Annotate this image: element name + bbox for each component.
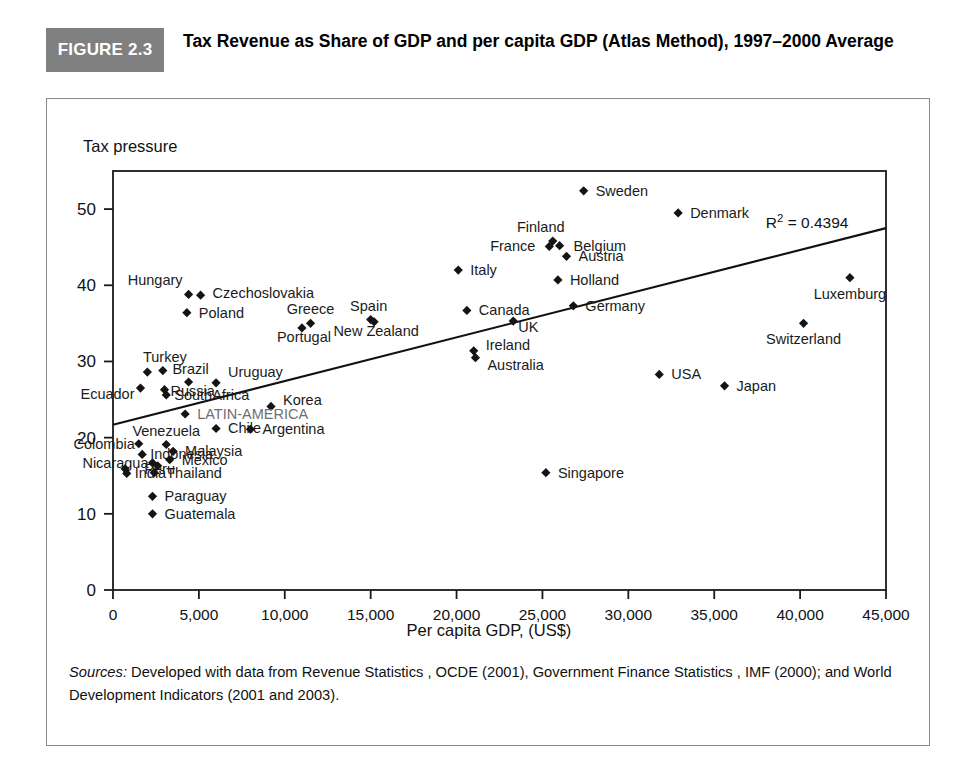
data-point-marker bbox=[158, 366, 167, 375]
figure-panel: Tax pressure 0102030405005,00010,00015,0… bbox=[46, 98, 930, 746]
data-point-label: Switzerland bbox=[766, 331, 841, 347]
data-point-label: Sweden bbox=[596, 183, 648, 199]
data-point-label: New Zealand bbox=[333, 323, 418, 339]
data-point-marker bbox=[555, 241, 564, 250]
data-point-marker bbox=[148, 492, 157, 501]
data-point-label: Japan bbox=[737, 378, 777, 394]
data-point-label: Finland bbox=[517, 219, 565, 235]
data-point-label: Luxemburg bbox=[814, 286, 887, 302]
data-point-label: Uruguay bbox=[228, 364, 284, 380]
data-point-label: Colombia bbox=[74, 436, 136, 452]
data-point-marker bbox=[720, 381, 729, 390]
data-point-marker bbox=[148, 509, 157, 518]
data-point-label: Austria bbox=[578, 248, 624, 264]
data-point-marker bbox=[184, 290, 193, 299]
source-text: Developed with data from Revenue Statist… bbox=[69, 664, 892, 703]
data-point-label: Thailand bbox=[166, 465, 222, 481]
data-point-label: Hungary bbox=[128, 272, 184, 288]
data-point-label: USA bbox=[671, 366, 701, 382]
figure-header: FIGURE 2.3 Tax Revenue as Share of GDP a… bbox=[46, 28, 930, 88]
data-point-marker bbox=[462, 306, 471, 315]
data-point-label: Canada bbox=[479, 302, 531, 318]
source-label: Sources: bbox=[69, 664, 127, 680]
data-point-label: Ecuador bbox=[80, 386, 134, 402]
data-point-label: Argentina bbox=[262, 421, 325, 437]
data-point-label: UK bbox=[518, 319, 538, 335]
data-point-marker bbox=[553, 275, 562, 284]
data-point-marker bbox=[136, 384, 145, 393]
data-point-marker bbox=[541, 468, 550, 477]
data-point-marker bbox=[579, 186, 588, 195]
data-point-label: Czechoslovakia bbox=[213, 285, 315, 301]
data-point-label: SouthAfrica bbox=[174, 387, 250, 403]
data-point-label: Poland bbox=[199, 305, 244, 321]
data-point-marker bbox=[655, 370, 664, 379]
y-axis-tick-label: 10 bbox=[77, 505, 96, 524]
data-point-label: Spain bbox=[350, 298, 387, 314]
data-point-marker bbox=[562, 252, 571, 261]
y-axis-tick-label: 0 bbox=[87, 581, 96, 600]
data-point-label: Singapore bbox=[558, 465, 624, 481]
data-point-label: Denmark bbox=[690, 205, 750, 221]
data-point-marker bbox=[134, 439, 143, 448]
y-axis-tick-label: 50 bbox=[77, 200, 96, 219]
data-point-label: Ireland bbox=[486, 337, 530, 353]
data-point-label: France bbox=[490, 238, 535, 254]
data-point-marker bbox=[469, 346, 478, 355]
data-point-marker bbox=[211, 424, 220, 433]
data-point-marker bbox=[471, 353, 480, 362]
data-point-marker bbox=[674, 208, 683, 217]
data-point-marker bbox=[306, 319, 315, 328]
chart-area: Tax pressure 0102030405005,00010,00015,0… bbox=[47, 99, 931, 659]
data-point-marker bbox=[845, 273, 854, 282]
data-point-label: Portugal bbox=[277, 329, 331, 345]
data-point-label: Greece bbox=[287, 301, 335, 317]
y-axis-tick-label: 30 bbox=[77, 352, 96, 371]
data-point-label: India bbox=[135, 465, 167, 481]
figure-number-badge: FIGURE 2.3 bbox=[46, 28, 164, 72]
r-squared-annotation: R2 = 0.4394 bbox=[766, 212, 849, 231]
data-point-marker bbox=[196, 291, 205, 300]
data-point-label: Italy bbox=[470, 262, 497, 278]
data-point-label: Venezuela bbox=[132, 423, 201, 439]
y-axis-tick-label: 40 bbox=[77, 276, 96, 295]
data-point-label: Australia bbox=[487, 357, 544, 373]
data-point-label: Guatemala bbox=[165, 506, 237, 522]
data-point-label: Chile bbox=[228, 420, 261, 436]
figure-title: Tax Revenue as Share of GDP and per capi… bbox=[183, 28, 894, 53]
scatter-plot: 0102030405005,00010,00015,00020,00025,00… bbox=[47, 99, 931, 659]
data-point-label: Holland bbox=[570, 272, 619, 288]
data-point-label: Paraguay bbox=[165, 488, 228, 504]
data-point-marker bbox=[454, 265, 463, 274]
data-point-marker bbox=[181, 409, 190, 418]
x-axis-title: Per capita GDP, (US$) bbox=[47, 621, 931, 640]
data-point-marker bbox=[143, 368, 152, 377]
data-point-label: Brazil bbox=[172, 361, 208, 377]
source-note: Sources: Developed with data from Revenu… bbox=[69, 661, 909, 707]
data-point-marker bbox=[799, 319, 808, 328]
data-point-label: Germany bbox=[585, 298, 645, 314]
data-point-marker bbox=[182, 308, 191, 317]
